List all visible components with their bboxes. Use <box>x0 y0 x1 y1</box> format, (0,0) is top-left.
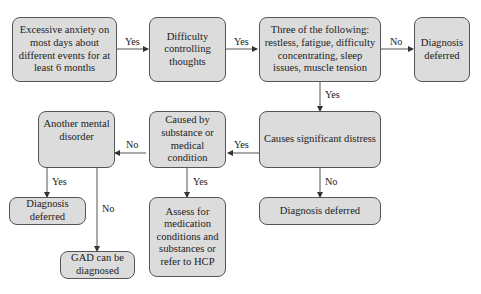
node-difficulty-controlling: Difficulty controlling thoughts <box>149 17 226 82</box>
edge-label-no: No <box>325 176 337 187</box>
node-another-disorder: Another mental disorder <box>38 111 115 168</box>
node-caused-by-substance: Caused by substance or medical condition <box>149 111 226 168</box>
edge-label-no: No <box>102 203 114 214</box>
node-significant-distress: Causes significant distress <box>259 111 381 168</box>
node-deferred-distress: Diagnosis deferred <box>259 197 381 225</box>
edge-label-yes: Yes <box>325 89 340 100</box>
edge-label-yes: Yes <box>234 139 249 150</box>
edge-label-yes: Yes <box>193 176 208 187</box>
node-deferred-left: Diagnosis deferred <box>9 197 86 225</box>
node-excessive-anxiety: Excessive anxiety on most days about dif… <box>12 17 117 82</box>
edge-label-yes: Yes <box>52 176 67 187</box>
edge-label-no: No <box>390 36 402 47</box>
edge-label-yes: Yes <box>234 36 249 47</box>
edge-label-no: No <box>126 139 138 150</box>
edge-label-yes: Yes <box>125 36 140 47</box>
node-gad-diagnosed: GAD can be diagnosed <box>60 251 135 279</box>
node-three-symptoms: Three of the following: restless, fatigu… <box>259 17 381 82</box>
node-assess-medication: Assess for medication conditions and sub… <box>149 197 226 277</box>
node-deferred-top: Diagnosis deferred <box>414 17 470 82</box>
